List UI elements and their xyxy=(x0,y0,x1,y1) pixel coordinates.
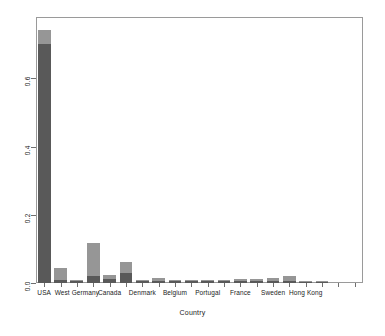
x-axis-tick-label: Denmark xyxy=(129,289,156,296)
bar xyxy=(38,30,51,283)
x-axis-tick xyxy=(208,283,209,287)
bar xyxy=(54,268,67,283)
bar-segment-upper xyxy=(152,278,165,281)
x-axis-tick xyxy=(110,283,111,287)
x-axis-tick xyxy=(142,283,143,287)
bar-segment-upper xyxy=(250,279,263,281)
x-axis-tick-label: Portugal xyxy=(195,289,220,296)
bar-segment-upper xyxy=(136,280,149,281)
y-axis: 0.00.20.40.6 xyxy=(0,0,36,336)
x-axis-tick xyxy=(355,283,356,287)
x-axis-tick-label: France xyxy=(230,289,251,296)
x-axis-tick-label: Belgium xyxy=(163,289,187,296)
x-axis-title: Country xyxy=(0,309,385,316)
x-axis-tick xyxy=(273,283,274,287)
bar-segment-upper xyxy=(87,243,100,276)
y-axis-tick-label: 0.2 xyxy=(25,213,32,223)
bar-segment-upper xyxy=(201,280,214,281)
bar-segment-upper xyxy=(218,280,231,281)
bar-segment-lower xyxy=(120,273,133,283)
bar-segment-upper xyxy=(316,281,329,282)
y-axis-tick-label: 0.4 xyxy=(25,145,32,155)
bar-segment-upper xyxy=(234,279,247,281)
x-axis-tick xyxy=(338,283,339,287)
bar xyxy=(87,243,100,283)
bar-series-group xyxy=(36,17,363,283)
x-axis-tick xyxy=(322,283,323,287)
x-axis-tick xyxy=(306,283,307,287)
bar-segment-upper xyxy=(120,262,133,273)
x-axis-tick xyxy=(44,283,45,287)
bar-segment-upper xyxy=(38,30,51,45)
bar xyxy=(283,276,296,283)
x-axis-tick-label: USA xyxy=(37,289,51,296)
x-axis: USAWest GermanyCanadaDenmarkBelgiumPortu… xyxy=(36,283,363,303)
x-axis-tick xyxy=(224,283,225,287)
x-axis-tick xyxy=(126,283,127,287)
x-axis-tick xyxy=(257,283,258,287)
bar-segment-upper xyxy=(267,278,280,281)
chart-canvas: 0.00.20.40.6 USAWest GermanyCanadaDenmar… xyxy=(0,0,385,336)
x-axis-tick xyxy=(77,283,78,287)
bar xyxy=(120,262,133,283)
bar-segment-upper xyxy=(54,268,67,280)
x-axis-tick xyxy=(191,283,192,287)
x-axis-tick xyxy=(159,283,160,287)
bar-segment-lower xyxy=(87,276,100,284)
y-axis-tick xyxy=(31,147,36,148)
x-axis-tick xyxy=(240,283,241,287)
y-axis-tick-label: 0.0 xyxy=(25,282,32,292)
y-axis-tick xyxy=(31,215,36,216)
bar xyxy=(103,275,116,283)
bar-segment-upper xyxy=(299,281,312,282)
x-axis-tick-label: Hong Kong xyxy=(289,289,322,296)
bar-segment-lower xyxy=(38,44,51,283)
y-axis-tick xyxy=(31,78,36,79)
x-axis-tick-label: Canada xyxy=(98,289,121,296)
x-axis-tick xyxy=(93,283,94,287)
x-axis-tick xyxy=(61,283,62,287)
bar-segment-upper xyxy=(283,276,296,281)
y-axis-tick-label: 0.6 xyxy=(25,77,32,87)
bar-segment-upper xyxy=(70,280,83,281)
x-axis-tick xyxy=(175,283,176,287)
x-axis-tick xyxy=(289,283,290,287)
bar-segment-upper xyxy=(185,280,198,281)
x-axis-tick-label: West Germany xyxy=(55,289,99,296)
bar-segment-upper xyxy=(169,280,182,281)
bar-segment-upper xyxy=(103,275,116,278)
x-axis-tick-label: Sweden xyxy=(261,289,285,296)
